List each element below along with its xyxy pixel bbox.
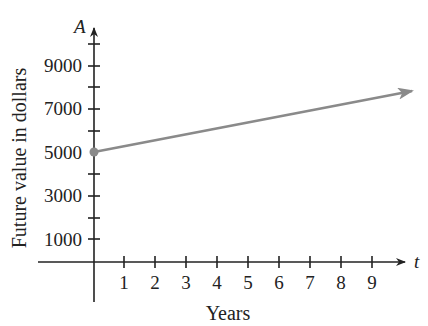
- x-axis-variable: t: [414, 251, 420, 272]
- y-axis-title: Future value in dollars: [8, 68, 30, 249]
- y-tick-label: 3000: [44, 185, 82, 206]
- x-tick-labels: 1 2 3 4 5 6 7 8 9: [119, 272, 377, 293]
- y-tick-label: 5000: [44, 142, 82, 163]
- x-tick-label: 2: [150, 272, 160, 293]
- start-point-marker: [90, 148, 99, 157]
- x-tick-label: 5: [243, 272, 253, 293]
- y-tick-labels: 9000 7000 5000 3000 1000: [44, 55, 82, 250]
- y-tick-label: 1000: [44, 229, 82, 250]
- x-axis-title: Years: [206, 302, 251, 324]
- y-axis-variable: A: [72, 16, 86, 37]
- x-tick-label: 1: [119, 272, 129, 293]
- y-tick-label: 9000: [44, 55, 82, 76]
- x-tick-label: 9: [367, 272, 377, 293]
- x-tick-label: 8: [336, 272, 346, 293]
- x-tick-label: 3: [181, 272, 191, 293]
- future-value-line: [94, 91, 412, 152]
- x-tick-label: 4: [212, 272, 222, 293]
- y-tick-label: 7000: [44, 98, 82, 119]
- x-tick-label: 6: [274, 272, 284, 293]
- x-tick-label: 7: [305, 272, 315, 293]
- chart-canvas: 9000 7000 5000 3000 1000 1 2 3 4 5 6 7 8…: [0, 0, 428, 326]
